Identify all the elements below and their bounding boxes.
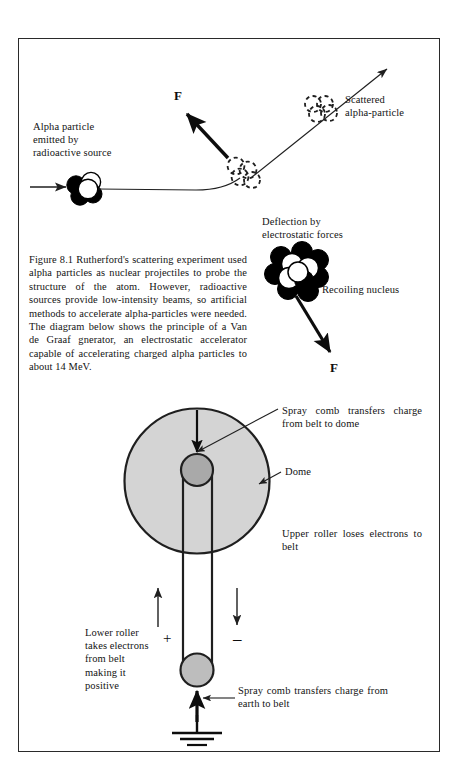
plus-sign-label: +	[163, 631, 171, 646]
label-scattered-alpha-particle: Scattered alpha-particle	[345, 93, 404, 119]
label-spray-comb-bottom: Spray comb transfers charge from earth t…	[238, 684, 388, 710]
minus-sign-label: –	[233, 630, 242, 647]
label-recoiling-nucleus: Recoiling nucleus	[322, 283, 399, 296]
label-force-lower: F	[330, 360, 338, 376]
label-spray-comb-top: Spray comb transfers charge from belt to…	[282, 404, 422, 430]
label-dome: Dome	[285, 465, 311, 478]
figure-page: Alpha particle emitted by radioactive so…	[0, 0, 460, 781]
figure-caption: Figure 8.1 Rutherford's scattering exper…	[29, 253, 247, 374]
label-alpha-particle: Alpha particle emitted by radioactive so…	[33, 120, 111, 160]
label-force-upper: F	[174, 88, 182, 104]
label-deflection: Deflection by electrostatic forces	[262, 215, 343, 241]
label-upper-roller: Upper roller loses electrons to belt	[282, 527, 422, 553]
